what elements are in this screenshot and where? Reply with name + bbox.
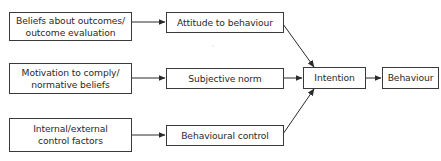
box-intention-label: Intention — [314, 72, 354, 84]
box-control-factors-line2: control factors — [33, 135, 108, 147]
box-subjective-norm: Subjective norm — [166, 68, 284, 89]
box-control-factors: Internal/external control factors — [9, 118, 132, 152]
box-intention: Intention — [303, 67, 366, 89]
box-attitude-label: Attitude to behaviour — [177, 17, 273, 29]
box-subjective-norm-label: Subjective norm — [188, 73, 261, 85]
box-motivation: Motivation to comply/ normative beliefs — [9, 63, 132, 94]
box-behaviour-label: Behaviour — [388, 72, 434, 84]
box-control-factors-line1: Internal/external — [33, 123, 108, 135]
box-motivation-line1: Motivation to comply/ — [22, 67, 120, 79]
box-beliefs-line2: outcome evaluation — [16, 27, 125, 39]
stray-dot — [212, 45, 213, 46]
box-motivation-line2: normative beliefs — [22, 79, 120, 91]
arrow-attitude-to-intention — [283, 24, 314, 67]
box-behavioural-control-label: Behavioural control — [181, 130, 269, 142]
arrow-behavioural-control-to-intention — [283, 89, 314, 134]
box-beliefs: Beliefs about outcomes/ outcome evaluati… — [9, 12, 132, 41]
box-attitude: Attitude to behaviour — [166, 12, 284, 33]
box-behaviour: Behaviour — [382, 67, 439, 89]
box-beliefs-line1: Beliefs about outcomes/ — [16, 15, 125, 27]
box-behavioural-control: Behavioural control — [166, 125, 284, 146]
